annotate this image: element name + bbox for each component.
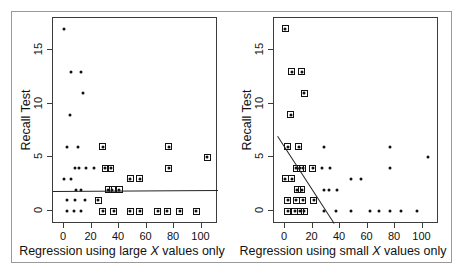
data-point [85, 167, 88, 170]
data-point [303, 210, 306, 213]
data-point [416, 210, 419, 213]
data-point [79, 210, 82, 213]
y-axis-tick [47, 156, 52, 157]
data-point [312, 199, 315, 202]
y-axis-tick-label: 5 [32, 153, 44, 159]
data-point [399, 210, 402, 213]
data-point [350, 177, 353, 180]
x-axis-tick [63, 223, 64, 228]
y-axis-tick [268, 156, 273, 157]
data-point [79, 70, 82, 73]
x-axis-tick [284, 223, 285, 228]
y-axis-title-right: Recall Test [240, 90, 254, 151]
data-point [72, 210, 75, 213]
data-point [167, 145, 170, 148]
data-point [129, 210, 132, 213]
y-axis-tick [47, 103, 52, 104]
data-point [83, 199, 86, 202]
data-point [78, 167, 81, 170]
x-axis-tick-label: 60 [360, 230, 372, 242]
data-point [297, 145, 300, 148]
data-point [388, 210, 391, 213]
data-point [427, 156, 430, 159]
y-axis-tick-label: 10 [32, 97, 44, 109]
data-point [129, 177, 132, 180]
x-axis-tick [312, 223, 313, 228]
data-point [301, 199, 304, 202]
x-axis-tick-label: 80 [167, 230, 179, 242]
data-point [97, 199, 100, 202]
data-point [336, 188, 339, 191]
data-point [65, 145, 68, 148]
data-point [74, 199, 77, 202]
data-point [284, 27, 287, 30]
data-point [63, 27, 66, 30]
data-point [76, 145, 79, 148]
x-axis-tick-label: 0 [60, 230, 66, 242]
data-point [101, 145, 104, 148]
data-point [82, 92, 85, 95]
data-point [156, 210, 159, 213]
data-point [322, 145, 325, 148]
data-point [74, 167, 77, 170]
data-point [195, 210, 198, 213]
y-axis-tick [268, 210, 273, 211]
data-point [178, 210, 181, 213]
y-axis-tick-label: 0 [253, 207, 265, 213]
x-axis-tick [339, 223, 340, 228]
data-point [322, 188, 325, 191]
x-axis-tick-label: 60 [139, 230, 151, 242]
data-point [290, 177, 293, 180]
y-axis-tick [47, 49, 52, 50]
data-point [167, 167, 170, 170]
figure-frame: 020406080100051015 Recall Test Regressio… [11, 11, 452, 263]
x-axis-title-left: Regression using large X values only [12, 244, 232, 258]
data-point [388, 145, 391, 148]
data-point [300, 188, 303, 191]
x-axis-tick-label: 20 [305, 230, 317, 242]
data-point [301, 167, 304, 170]
plot-area-left [52, 17, 217, 223]
data-point [350, 210, 353, 213]
chart-panel-left: 020406080100051015 Recall Test Regressio… [12, 12, 232, 262]
x-axis-tick [422, 223, 423, 228]
data-point [300, 70, 303, 73]
x-axis-tick [394, 223, 395, 228]
data-point [101, 210, 104, 213]
data-point [138, 210, 141, 213]
data-point [286, 210, 289, 213]
x-axis-tick-label: 20 [84, 230, 96, 242]
data-point [286, 199, 289, 202]
x-axis-tick [173, 223, 174, 228]
data-point [93, 167, 96, 170]
data-point [112, 210, 115, 213]
data-point [369, 210, 372, 213]
data-point [138, 177, 141, 180]
data-point [68, 113, 71, 116]
data-point [65, 210, 68, 213]
x-axis-title-right: Regression using small X values only [233, 244, 453, 258]
data-point [290, 70, 293, 73]
data-point [166, 210, 169, 213]
data-point [359, 177, 362, 180]
data-point [329, 167, 332, 170]
data-point [63, 177, 66, 180]
y-axis-title-left: Recall Test [19, 90, 33, 151]
data-point [328, 188, 331, 191]
x-axis-tick-label: 100 [412, 230, 430, 242]
x-axis-tick-label: 100 [191, 230, 209, 242]
data-point [303, 92, 306, 95]
x-axis-tick [367, 223, 368, 228]
y-axis-tick [268, 49, 273, 50]
data-point [377, 210, 380, 213]
x-axis-tick-label: 80 [388, 230, 400, 242]
data-point [289, 113, 292, 116]
x-axis-tick [118, 223, 119, 228]
y-axis-tick-label: 10 [253, 97, 265, 109]
x-axis-tick [146, 223, 147, 228]
y-axis-tick-label: 0 [32, 207, 44, 213]
x-axis-tick [91, 223, 92, 228]
data-point [295, 199, 298, 202]
data-point [69, 70, 72, 73]
y-axis-tick-label: 15 [32, 43, 44, 55]
